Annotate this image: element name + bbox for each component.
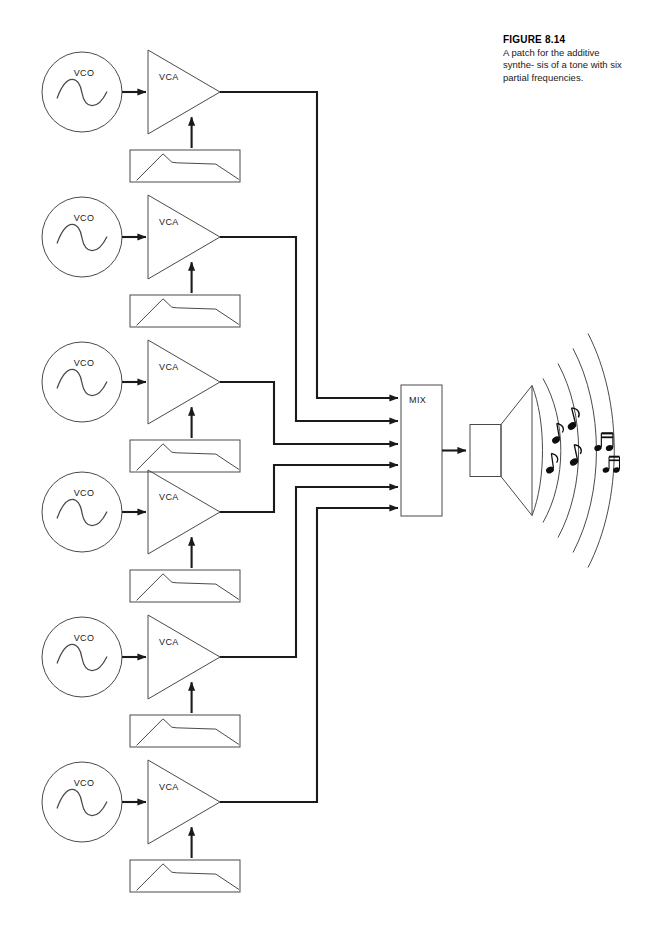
sine-wave-icon-2 [57,224,107,250]
sine-wave-icon-5 [57,644,107,670]
additive-synthesis-patch-diagram: VCOVCAVCOVCAVCOVCAVCOVCAVCOVCAVCOVCA MIX [0,0,653,942]
sine-wave-icon-6 [57,789,107,815]
vca-to-mixer-signal-path-1 [220,92,398,398]
envelope-generator-1[interactable] [130,150,240,182]
envelope-contour-5 [137,719,239,746]
music-note-2 [548,422,566,445]
vco-label-6: VCO [74,778,95,788]
note-stem [574,445,577,460]
music-note-1 [562,406,582,432]
vca-triangle-1[interactable] [148,50,220,134]
synth-chain-2: VCOVCA [42,195,240,327]
vca-label-6: VCA [159,782,179,792]
vco-label-1: VCO [74,68,95,78]
sound-wave-arc-3 [573,349,596,553]
sine-wave-icon-4 [57,499,107,525]
vca-triangle-3[interactable] [148,340,220,424]
synth-chains-layer: VCOVCAVCOVCAVCOVCAVCOVCAVCOVCAVCOVCA [42,50,240,892]
envelope-generator-5[interactable] [130,715,240,747]
envelope-contour-6 [137,864,239,891]
synth-chain-3: VCOVCA [42,340,240,472]
vca-triangle-5[interactable] [148,615,220,699]
synth-chain-6: VCOVCA [42,760,240,892]
figure-caption-title: FIGURE 8.14 [503,34,633,46]
envelope-contour-4 [137,574,239,601]
figure-caption-text: A patch for the additive synthe- sis of … [503,47,633,84]
envelope-generator-3[interactable] [130,440,240,472]
vca-to-mixer-signal-path-3 [220,382,398,444]
vca-triangle-6[interactable] [148,760,220,844]
vca-triangle-2[interactable] [148,195,220,279]
synth-chain-5: VCOVCA [42,615,240,747]
vco-label-2: VCO [74,213,95,223]
vca-to-mixer-signal-path-6 [220,508,398,802]
sound-wave-arc-1 [543,379,561,523]
vco-label-3: VCO [74,358,95,368]
sine-wave-icon-1 [57,79,107,105]
figure-caption: FIGURE 8.14 A patch for the additive syn… [503,34,633,84]
envelope-contour-1 [137,154,239,181]
sine-wave-icon-3 [57,369,107,395]
vca-label-2: VCA [159,217,179,227]
synth-chain-4: VCOVCA [42,470,240,602]
mixer-layer: MIX [401,385,466,516]
figure-8-14: VCOVCAVCOVCAVCOVCAVCOVCAVCOVCAVCOVCA MIX… [0,0,653,942]
vco-label-5: VCO [74,633,95,643]
speaker-magnet-body [470,425,501,477]
envelope-generator-2[interactable] [130,295,240,327]
vca-to-mixer-signal-path-2 [220,237,398,421]
music-note-4 [565,443,584,467]
note-stem [551,453,553,468]
signal-routing-bus-layer [220,92,398,802]
mixer-label: MIX [409,395,426,405]
synth-chain-1: VCOVCA [42,50,240,182]
music-note-3 [543,453,560,475]
caption-line-3: frequencies. [532,72,584,83]
note-head [566,421,577,432]
vca-to-mixer-signal-path-4 [220,465,398,512]
vca-label-1: VCA [159,72,179,82]
speaker-output-layer [470,334,621,568]
vca-label-4: VCA [159,492,179,502]
envelope-contour-2 [137,299,239,326]
speaker-cone [501,386,532,516]
vca-label-5: VCA [159,637,179,647]
speaker-diaphragm [532,386,543,516]
vca-label-3: VCA [159,362,179,372]
envelope-generator-6[interactable] [130,860,240,892]
envelope-generator-4[interactable] [130,570,240,602]
vco-label-4: VCO [74,488,95,498]
music-note-beamed-pair-2 [602,457,621,474]
envelope-contour-3 [137,444,239,471]
vca-triangle-4[interactable] [148,470,220,554]
